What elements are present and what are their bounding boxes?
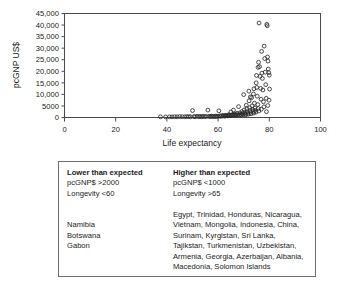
x-tick-label: 0: [62, 125, 66, 134]
y-tick-label: 10,000: [36, 90, 59, 99]
y-axis-title: pcGNP US$: [11, 42, 21, 88]
y-tick-label: 25,000: [36, 55, 59, 64]
list-item: Egypt, Trinidad, Honduras, Nicaragua,: [173, 210, 313, 221]
column-header-higher: Higher than expected: [173, 168, 313, 178]
scatter-chart-figure: 0500010,00015,00020,00025,00030,00035,00…: [0, 0, 337, 152]
data-point: [206, 108, 210, 112]
y-tick-label: 35,000: [36, 32, 59, 41]
data-point: [266, 104, 270, 108]
x-tick-label: 80: [265, 125, 273, 134]
data-point: [247, 89, 251, 93]
x-axis-title: Life expectancy: [162, 138, 222, 148]
data-point: [248, 95, 252, 99]
data-point: [265, 110, 269, 114]
y-axis: 0500010,00015,00020,00025,00030,00035,00…: [36, 9, 65, 122]
list-item: Surinam, Kyrgistan, Sri Lanka,: [173, 231, 313, 242]
data-point: [255, 94, 259, 98]
data-point-layer: [159, 21, 272, 119]
data-point: [159, 115, 163, 119]
x-tick-label: 20: [111, 125, 119, 134]
y-tick-label: 20,000: [36, 67, 59, 76]
data-point: [242, 93, 246, 97]
data-point: [267, 73, 271, 77]
data-point: [164, 115, 168, 119]
column-header-lower: Lower than expected: [67, 168, 171, 178]
column-criterion-higher-gnp: pcGNP$ <1000: [173, 178, 313, 189]
table-inner: Lower than expected pcGNP$ >2000 Longevi…: [59, 162, 315, 276]
data-point: [254, 81, 258, 85]
x-tick-label: 100: [314, 125, 327, 134]
data-point: [264, 83, 268, 87]
list-item: Vietnam, Mongolia, Indonesia, China,: [173, 220, 313, 231]
y-tick-label: 40,000: [36, 21, 59, 30]
y-tick-label: 30,000: [36, 44, 59, 53]
country-list-lower: Namibia Botswana Gabon: [67, 220, 171, 252]
list-item: Armenia, Georgia, Azerbaijan, Albania,: [173, 252, 313, 263]
chart-canvas: 0500010,00015,00020,00025,00030,00035,00…: [0, 0, 337, 152]
data-point: [262, 100, 266, 104]
plot-frame: [65, 14, 321, 118]
x-tick-label: 40: [163, 125, 171, 134]
data-point: [252, 92, 256, 96]
y-tick-label: 5000: [42, 102, 59, 111]
data-point: [257, 21, 261, 25]
data-point: [256, 103, 260, 107]
table-column-lower: Lower than expected pcGNP$ >2000 Longevi…: [67, 168, 171, 252]
data-point: [267, 98, 271, 102]
column-criterion-lower-gnp: pcGNP$ >2000: [67, 178, 171, 189]
country-list-higher: Egypt, Trinidad, Honduras, Nicaragua, Vi…: [173, 210, 313, 273]
y-tick-label: 15,000: [36, 79, 59, 88]
data-point: [217, 109, 221, 113]
y-tick-label: 45,000: [36, 9, 59, 18]
data-point: [262, 44, 266, 48]
column-criterion-lower-longevity: Longevity <60: [67, 189, 171, 200]
list-item: Tajikstan, Turkmenistan, Uzbekistan,: [173, 241, 313, 252]
list-item: Botswana: [67, 231, 171, 242]
data-point: [237, 105, 241, 109]
data-point: [260, 50, 264, 54]
list-item: Namibia: [67, 220, 171, 231]
list-item: Macedonia, Solomon Islands: [173, 262, 313, 273]
data-point: [257, 60, 261, 64]
data-point: [266, 67, 270, 71]
list-item: Gabon: [67, 241, 171, 252]
y-tick-label: 0: [55, 113, 59, 122]
data-point: [191, 109, 195, 113]
column-criterion-higher-longevity: Longevity >65: [173, 189, 313, 200]
table-column-higher: Higher than expected pcGNP$ <1000 Longev…: [173, 168, 313, 273]
data-point: [268, 87, 272, 91]
x-axis: 020406080100: [62, 118, 326, 134]
x-tick-label: 60: [214, 125, 222, 134]
country-comparison-table: Lower than expected pcGNP$ >2000 Longevi…: [58, 161, 316, 277]
data-point: [266, 59, 270, 63]
